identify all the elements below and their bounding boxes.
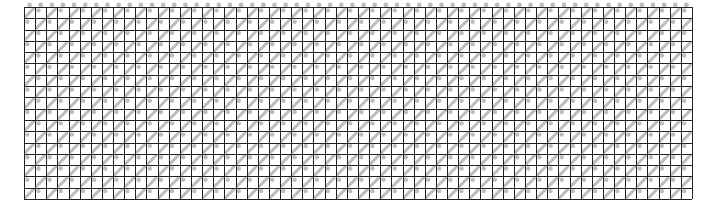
grid-figure — [0, 0, 710, 210]
grid-lines — [24, 7, 693, 200]
